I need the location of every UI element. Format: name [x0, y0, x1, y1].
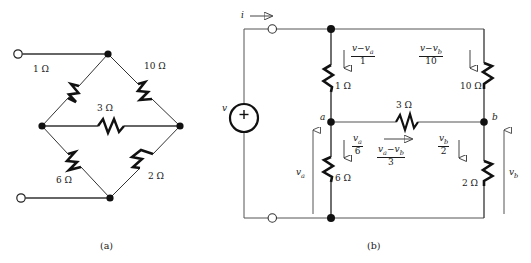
resistor-b-3ohm — [396, 114, 418, 130]
wire-a-bl-2 — [81, 167, 110, 198]
label-b-10ohm: 10 Ω — [460, 82, 482, 91]
fraction-current-r1: v−va 1 — [351, 44, 375, 66]
terminal-b-top-open — [268, 25, 276, 33]
fraction-r1-denominator: 1 — [351, 56, 375, 66]
resistor-a-6ohm — [67, 152, 81, 170]
f10-vb-sub: b — [438, 48, 442, 56]
label-current-i: i — [241, 11, 244, 20]
fraction-current-r3: va−vb 3 — [377, 145, 405, 167]
node-a-top — [104, 50, 111, 57]
label-b-2ohm: 2 Ω — [462, 179, 478, 188]
fraction-r1-numerator: v−va — [351, 44, 375, 56]
label-node-a: a — [320, 113, 325, 122]
resistor-b-1ohm — [324, 65, 334, 92]
label-a-6ohm: 6 Ω — [56, 176, 72, 185]
node-b-a — [327, 118, 335, 126]
fraction-r10-numerator: v−vb — [419, 44, 443, 56]
circuit-svg — [0, 0, 531, 263]
resistor-a-1ohm — [68, 84, 79, 102]
f3-minus: − — [387, 144, 395, 154]
node-a-right — [176, 122, 183, 129]
label-a-2ohm: 2 Ω — [148, 172, 164, 181]
f1-va-sub: a — [370, 48, 374, 56]
vb-sub: b — [514, 172, 518, 180]
fraction-r2-denominator: 2 — [438, 146, 449, 156]
resistor-b-2ohm — [483, 161, 493, 186]
label-b-1ohm: 1 Ω — [335, 82, 351, 91]
fraction-r3-denominator: 3 — [377, 157, 405, 167]
wire-a-bl-1 — [42, 126, 68, 154]
resistor-a-10ohm — [138, 82, 152, 100]
caption-panel-b: (b) — [367, 240, 381, 251]
resistor-a-2ohm — [132, 150, 153, 168]
wire-a-tl-1 — [79, 54, 108, 86]
label-voltage-vb: vb — [509, 168, 518, 179]
label-b-6ohm: 6 Ω — [335, 174, 351, 183]
terminal-top-open — [14, 50, 22, 58]
label-source-v: v — [222, 104, 227, 113]
label-a-10ohm: 10 Ω — [144, 62, 166, 71]
label-voltage-va: va — [296, 168, 305, 179]
va-sub: a — [301, 172, 305, 180]
fraction-r2-numerator: vb — [438, 134, 449, 146]
terminal-b-bottom-open — [268, 214, 276, 222]
label-a-3ohm: 3 Ω — [97, 104, 113, 113]
f6-sub: a — [358, 138, 362, 146]
wire-a-tr-2 — [152, 99, 180, 126]
f10-minus: − — [425, 43, 433, 53]
wire-a-tl-2 — [42, 98, 68, 126]
wire-a-br-2 — [153, 126, 180, 154]
resistor-b-6ohm — [324, 157, 334, 182]
node-b-bottom-junction — [327, 214, 335, 222]
f1-minus: − — [357, 43, 365, 53]
fraction-r6-numerator: va — [352, 134, 363, 146]
f2-sub: b — [444, 138, 448, 146]
wire-a-br-1 — [110, 168, 140, 198]
fraction-current-r2: vb 2 — [438, 134, 449, 156]
label-node-b: b — [492, 113, 498, 122]
fraction-r3-numerator: va−vb — [377, 145, 405, 157]
figure-canvas: 1 Ω 10 Ω 3 Ω 6 Ω 2 Ω (a) i v a b 1 Ω 10 … — [0, 0, 531, 263]
resistor-a-3ohm — [98, 119, 124, 133]
node-a-bottom — [106, 194, 113, 201]
label-a-1ohm: 1 Ω — [33, 65, 49, 74]
node-a-left — [38, 122, 45, 129]
node-b-top-junction — [327, 25, 335, 33]
fraction-r6-denominator: 6 — [352, 146, 363, 156]
fraction-current-r10: v−vb 10 — [419, 44, 443, 66]
node-b-b — [480, 118, 488, 126]
resistor-b-10ohm — [483, 63, 493, 89]
fraction-r10-denominator: 10 — [419, 56, 443, 66]
fraction-current-r6: va 6 — [352, 134, 363, 156]
wire-a-tr-1 — [108, 54, 138, 84]
caption-panel-a: (a) — [100, 240, 113, 251]
f3-vb-sub: b — [400, 149, 404, 157]
terminal-bottom-open — [17, 194, 25, 202]
label-b-3ohm: 3 Ω — [396, 101, 412, 110]
